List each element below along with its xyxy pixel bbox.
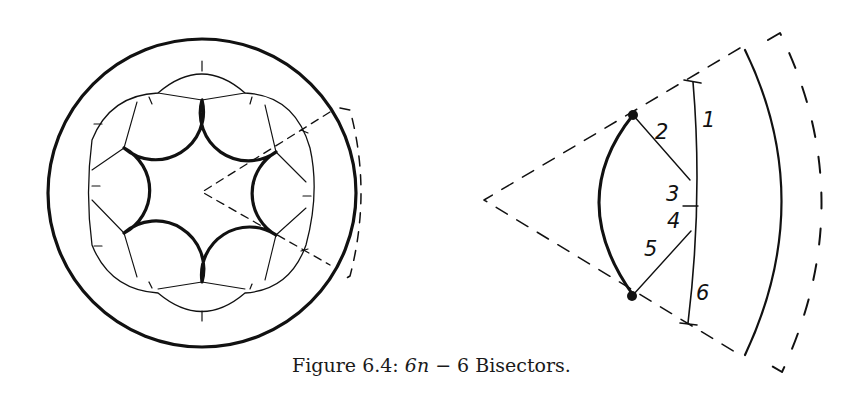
label-5: 5 <box>644 237 657 261</box>
right-outer-arc <box>745 50 782 355</box>
dashed-wedge <box>202 112 330 265</box>
label-6: 6 <box>696 281 709 305</box>
figure-caption: Figure 6.4: 6n − 6 Bisectors. <box>0 354 863 376</box>
outer-circle <box>48 39 356 347</box>
site-point-bottom <box>627 291 637 301</box>
label-4: 4 <box>667 209 680 233</box>
right-diagram <box>484 33 822 372</box>
figure-6-4-diagram: 1 2 3 4 5 6 <box>0 0 863 401</box>
lens-region <box>599 115 633 295</box>
inner-star <box>124 100 276 282</box>
label-2: 2 <box>655 120 668 144</box>
caption-suffix: Bisectors. <box>475 354 571 376</box>
caption-middle: − 6 <box>429 354 475 376</box>
bisector-5 <box>633 231 691 295</box>
caption-prefix: Figure 6.4: <box>292 354 405 376</box>
caption-math: 6n <box>405 354 429 376</box>
bisector-segments <box>92 93 306 289</box>
right-dashed-bracket <box>768 33 822 372</box>
label-1: 1 <box>702 108 715 132</box>
site-point-top <box>628 110 638 120</box>
label-3: 3 <box>666 182 679 206</box>
right-dashed-wedge <box>484 48 740 355</box>
left-diagram <box>48 39 361 347</box>
